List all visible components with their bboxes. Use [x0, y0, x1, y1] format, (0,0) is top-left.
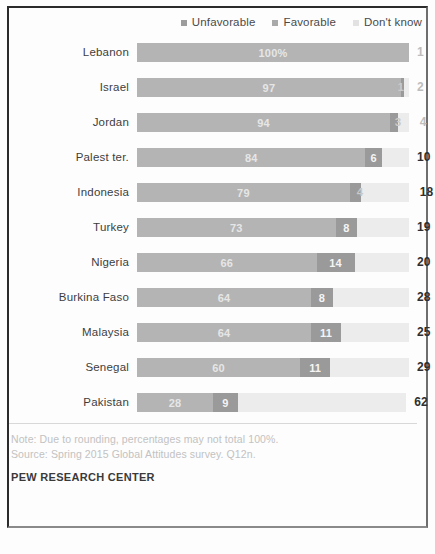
chart-row: Turkey73819 [9, 210, 426, 245]
chart-row: Israel9712 [9, 70, 426, 105]
segment-unfavorable: 60 [137, 358, 300, 377]
segment-favorable: 6 [365, 148, 381, 167]
legend-swatch-favorable-icon [272, 20, 278, 26]
segment-dont-know [382, 148, 409, 167]
segment-unfavorable-value: 28 [169, 397, 182, 409]
chart-row: Jordan9434 [9, 105, 426, 140]
segment-favorable: 8 [311, 288, 333, 307]
segment-favorable-value: 11 [320, 327, 332, 339]
chart-row: Indonesia79418 [9, 175, 426, 210]
row-bar-area: 641125 [137, 315, 426, 350]
segment-unfavorable-value: 100% [259, 47, 288, 59]
segment-favorable-value: 14 [329, 257, 342, 269]
stacked-bar: 94 [137, 113, 409, 132]
segment-unfavorable: 94 [137, 113, 390, 132]
segment-favorable-value: 6 [370, 152, 376, 164]
segment-unfavorable: 73 [137, 218, 336, 237]
row-bar-area: 601129 [137, 350, 426, 385]
segment-favorable-value: 4 [357, 183, 363, 202]
row-label-palest-ter: Palest ter. [9, 140, 129, 175]
segment-unfavorable-value: 94 [257, 117, 270, 129]
segment-favorable-value: 3 [395, 113, 401, 132]
segment-dont-know [330, 358, 409, 377]
row-label-lebanon: Lebanon [9, 35, 129, 70]
row-bar-area: 9712 [137, 70, 426, 105]
chart-rows: Lebanon100%1Israel9712Jordan9434Palest t… [9, 35, 426, 420]
segment-favorable-value: 8 [319, 292, 325, 304]
chart-row: Nigeria661420 [9, 245, 426, 280]
stacked-bar: 79 [137, 183, 409, 202]
legend-label-unfavorable: Unfavorable [192, 16, 256, 28]
pew-chart-figure: Unfavorable Favorable Don't know Lebanon… [0, 0, 435, 554]
segment-dont-know [404, 78, 409, 97]
row-label-senegal: Senegal [9, 350, 129, 385]
segment-favorable: 14 [317, 253, 355, 272]
row-bar-area: 100%1 [137, 35, 426, 70]
row-bar-area: 28962 [137, 385, 426, 420]
segment-unfavorable-value: 79 [237, 187, 250, 199]
row-bar-area: 9434 [137, 105, 426, 140]
segment-dont-know [355, 253, 409, 272]
chart-row: Lebanon100%1 [9, 35, 426, 70]
segment-dont-know-value: 1 [417, 43, 424, 62]
stacked-bar: 738 [137, 218, 409, 237]
segment-unfavorable-value: 64 [218, 327, 231, 339]
legend-swatch-dont-know-icon [353, 20, 359, 26]
chart-footer: Note: Due to rounding, percentages may n… [11, 432, 421, 483]
segment-unfavorable: 28 [137, 393, 213, 412]
chart-row: Senegal601129 [9, 350, 426, 385]
stacked-bar: 289 [137, 393, 409, 412]
segment-favorable-value: 8 [343, 222, 349, 234]
legend-item-dont-know: Don't know [353, 16, 422, 28]
stacked-bar: 648 [137, 288, 409, 307]
segment-unfavorable: 97 [137, 78, 401, 97]
stacked-bar: 6011 [137, 358, 409, 377]
segment-dont-know-value: 25 [417, 323, 430, 342]
segment-favorable-value: 11 [309, 362, 321, 374]
segment-favorable: 11 [311, 323, 341, 342]
legend-label-favorable: Favorable [283, 16, 336, 28]
segment-dont-know-value: 29 [417, 358, 430, 377]
segment-unfavorable-value: 60 [212, 362, 225, 374]
row-label-pakistan: Pakistan [9, 385, 129, 420]
row-label-indonesia: Indonesia [9, 175, 129, 210]
chart-legend: Unfavorable Favorable Don't know [9, 12, 426, 32]
legend-swatch-unfavorable-icon [181, 20, 187, 26]
chart-row: Pakistan28962 [9, 385, 426, 420]
footer-source: Source: Spring 2015 Global Attitudes sur… [11, 447, 421, 462]
segment-unfavorable: 64 [137, 288, 311, 307]
segment-favorable-value: 1 [398, 78, 404, 97]
stacked-bar: 97 [137, 78, 409, 97]
segment-unfavorable: 79 [137, 183, 350, 202]
segment-dont-know-value: 4 [420, 113, 427, 132]
legend-item-favorable: Favorable [272, 16, 336, 28]
stacked-bar: 6411 [137, 323, 409, 342]
row-bar-area: 64828 [137, 280, 426, 315]
segment-unfavorable: 84 [137, 148, 365, 167]
segment-favorable: 11 [300, 358, 330, 377]
segment-dont-know-value: 18 [420, 183, 433, 202]
segment-dont-know [357, 218, 409, 237]
stacked-bar: 6614 [137, 253, 409, 272]
row-bar-area: 73819 [137, 210, 426, 245]
segment-unfavorable: 66 [137, 253, 317, 272]
segment-dont-know-value: 19 [417, 218, 430, 237]
segment-favorable: 8 [336, 218, 358, 237]
segment-unfavorable: 64 [137, 323, 311, 342]
segment-dont-know-value: 28 [417, 288, 430, 307]
legend-label-dont-know: Don't know [364, 16, 422, 28]
row-label-malaysia: Malaysia [9, 315, 129, 350]
chart-row: Malaysia641125 [9, 315, 426, 350]
segment-dont-know [238, 393, 407, 412]
row-label-turkey: Turkey [9, 210, 129, 245]
row-label-israel: Israel [9, 70, 129, 105]
row-label-burkina-faso: Burkina Faso [9, 280, 129, 315]
segment-dont-know-value: 20 [417, 253, 430, 272]
segment-favorable-value: 9 [222, 397, 228, 409]
chart-row: Burkina Faso64828 [9, 280, 426, 315]
row-label-jordan: Jordan [9, 105, 129, 140]
footer-divider [9, 423, 417, 424]
stacked-bar: 846 [137, 148, 409, 167]
segment-unfavorable-value: 64 [218, 292, 231, 304]
footer-brand: PEW RESEARCH CENTER [11, 471, 421, 483]
